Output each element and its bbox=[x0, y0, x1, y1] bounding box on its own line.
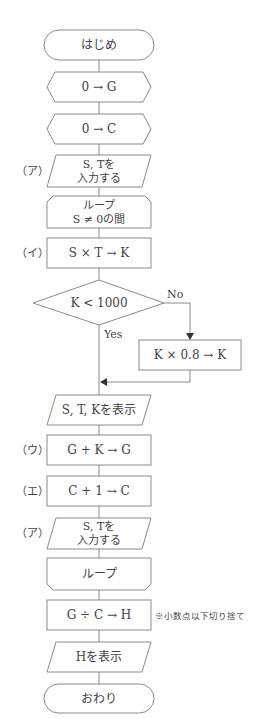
calc-k-step: （イ） S × T → K bbox=[16, 238, 151, 268]
arrow-left-icon bbox=[100, 378, 107, 386]
loop-start: ループ S ≠ 0の間 bbox=[47, 196, 151, 228]
input2-line1: S, Tを bbox=[83, 520, 115, 533]
init-g-text: 0 → G bbox=[82, 80, 117, 94]
discount-step: K × 0.8 → K bbox=[139, 340, 241, 370]
count-c-step: （エ） C + 1 → C bbox=[16, 476, 151, 506]
init-c-text: 0 → C bbox=[82, 122, 117, 136]
display-stk-step: S, T, Kを表示 bbox=[47, 395, 151, 425]
start-label: はじめ bbox=[81, 38, 117, 52]
count-c-text: C + 1 → C bbox=[68, 484, 129, 498]
arrow-down-icon bbox=[186, 333, 194, 340]
end-label: おわり bbox=[81, 692, 117, 706]
init-c-step: 0 → C bbox=[47, 114, 151, 144]
loop-start-line1: ループ bbox=[83, 199, 115, 212]
loop-start-line2: S ≠ 0の間 bbox=[73, 213, 126, 226]
loop-end: ループ bbox=[47, 558, 151, 590]
flowchart: はじめ 0 → G 0 → C （ア） S, Tを 入力する ループ S ≠ 0… bbox=[0, 0, 267, 719]
display-h-step: Hを表示 bbox=[47, 642, 151, 672]
discount-text: K × 0.8 → K bbox=[154, 348, 227, 362]
input2-line2: 入力する bbox=[77, 534, 121, 547]
input-step-2: （ア） S, Tを 入力する bbox=[16, 518, 151, 549]
avg-h-step: G ÷ C → H ※小数点以下切り捨て bbox=[47, 600, 245, 630]
input1-line2: 入力する bbox=[77, 172, 121, 185]
decision-no-label: No bbox=[167, 288, 184, 301]
start-terminal: はじめ bbox=[44, 30, 154, 60]
avg-h-text: G ÷ C → H bbox=[67, 608, 132, 622]
display-stk-text: S, T, Kを表示 bbox=[62, 403, 136, 417]
end-terminal: おわり bbox=[44, 684, 154, 713]
init-g-step: 0 → G bbox=[47, 72, 151, 102]
step-label-u: （ウ） bbox=[16, 444, 49, 457]
input1-line1: S, Tを bbox=[83, 158, 115, 171]
decision-text: K < 1000 bbox=[70, 296, 127, 310]
truncate-note: ※小数点以下切り捨て bbox=[155, 611, 245, 621]
calc-k-text: S × T → K bbox=[69, 246, 131, 260]
display-h-text: Hを表示 bbox=[76, 650, 122, 664]
input-step-1: （ア） S, Tを 入力する bbox=[16, 155, 151, 187]
step-label-i: （イ） bbox=[16, 247, 49, 260]
sum-g-step: （ウ） G + K → G bbox=[16, 435, 151, 465]
decision-diamond: K < 1000 No Yes bbox=[33, 280, 184, 341]
step-label-e: （エ） bbox=[16, 485, 49, 498]
sum-g-text: G + K → G bbox=[67, 443, 131, 457]
loop-end-text: ループ bbox=[82, 567, 117, 581]
decision-yes-label: Yes bbox=[103, 328, 123, 341]
step-label-a-2: （ア） bbox=[16, 527, 49, 540]
step-label-a: （ア） bbox=[16, 165, 49, 178]
